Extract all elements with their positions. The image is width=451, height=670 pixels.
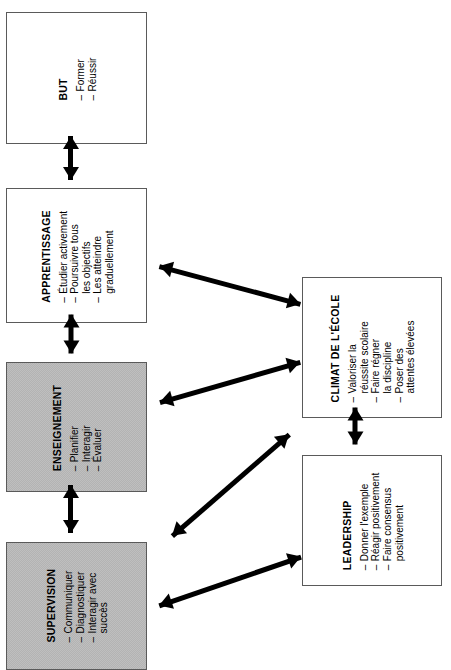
box-climat-de-lecole: CLIMAT DE L'ÉCOLE Valoriser la réussite … — [302, 277, 442, 418]
list-item: Valoriser la réussite scolaire — [347, 321, 370, 403]
box-but-content: BUT Former Réussir — [7, 13, 148, 145]
list-item: Étudier activement — [58, 211, 70, 303]
list-item: Poursuivre tous les objectifs — [69, 211, 92, 303]
arrow-apprentissage-enseignement — [64, 315, 80, 354]
box-climat-title: CLIMAT DE L'ÉCOLE — [329, 295, 341, 403]
arrow-but-apprentissage — [63, 136, 79, 180]
list-item: Interagir avec succès — [87, 571, 110, 643]
box-enseignement-title: ENSEIGNEMENT — [51, 385, 63, 471]
arrow-enseignement-supervision — [63, 485, 79, 533]
box-supervision-list: Communiquer Diagnostiquer Interagir avec… — [63, 571, 109, 643]
arrow-supervision-climat — [167, 428, 294, 542]
list-item: Communiquer — [63, 571, 75, 643]
box-apprentissage-content: APPRENTISSAGE Étudier activement Poursui… — [7, 189, 148, 324]
box-leadership-content: LEADERSHIP Donner l'exemple Réagir posit… — [303, 456, 443, 587]
list-item: Faire régner la discipline — [370, 321, 393, 403]
list-item: Diagnostiquer — [75, 571, 87, 643]
box-apprentissage-title: APPRENTISSAGE — [40, 210, 52, 302]
list-item: Poser des attentes élevées — [394, 321, 417, 403]
box-supervision-title: SUPERVISION — [45, 569, 57, 643]
box-leadership-title: LEADERSHIP — [341, 501, 353, 571]
list-item: Évaluer — [92, 426, 104, 472]
list-item: Les atteindre graduellement — [92, 211, 115, 303]
box-but-list: Former Réussir — [75, 58, 98, 101]
list-item: Réagir positivement — [370, 473, 382, 570]
arrow-climat-leadership — [348, 408, 364, 445]
box-leadership-list: Donner l'exemple Réagir positivement Fai… — [359, 473, 405, 570]
box-supervision-content: SUPERVISION Communiquer Diagnostiquer In… — [7, 543, 148, 668]
arrow-enseignement-climat — [158, 354, 303, 410]
box-enseignement-content: ENSEIGNEMENT Planifier Interagir Évaluer — [7, 363, 148, 493]
box-but-title: BUT — [57, 78, 69, 100]
list-item: Planifier — [69, 426, 81, 472]
arrow-supervision-leadership — [156, 549, 303, 613]
box-apprentissage: APPRENTISSAGE Étudier activement Poursui… — [6, 188, 147, 323]
box-but: BUT Former Réussir — [6, 12, 147, 144]
box-enseignement: ENSEIGNEMENT Planifier Interagir Évaluer — [6, 362, 147, 492]
box-climat-content: CLIMAT DE L'ÉCOLE Valoriser la réussite … — [303, 278, 443, 419]
box-climat-list: Valoriser la réussite scolaire Faire rég… — [347, 321, 417, 403]
list-item: Former — [75, 58, 87, 101]
box-supervision: SUPERVISION Communiquer Diagnostiquer In… — [6, 542, 147, 670]
list-item: Faire consensus positivement — [382, 473, 405, 570]
list-item: Interagir — [81, 426, 93, 472]
arrow-apprentissage-climat — [157, 258, 302, 311]
box-leadership: LEADERSHIP Donner l'exemple Réagir posit… — [302, 455, 442, 586]
list-item: Réussir — [87, 58, 99, 101]
list-item: Donner l'exemple — [359, 473, 371, 570]
box-enseignement-list: Planifier Interagir Évaluer — [69, 426, 104, 472]
box-apprentissage-list: Étudier activement Poursuivre tous les o… — [58, 211, 116, 303]
